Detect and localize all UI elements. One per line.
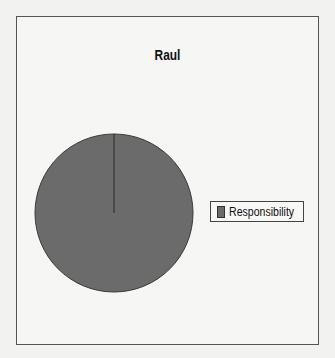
legend-swatch-responsibility — [217, 206, 225, 218]
pie-chart — [17, 17, 320, 346]
chart-frame: Raul Responsibility — [16, 16, 319, 345]
chart-legend: Responsibility — [210, 201, 304, 222]
legend-label-responsibility: Responsibility — [229, 205, 294, 219]
